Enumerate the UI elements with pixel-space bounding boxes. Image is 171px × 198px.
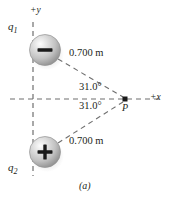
y-axis-label: +y [30, 6, 41, 16]
point-p-marker [123, 97, 128, 102]
charge-label-q2-subscript: 2 [14, 167, 18, 176]
charge-label-q1-subscript: 1 [14, 26, 18, 35]
distance-label-lower: 0.700 m [69, 136, 103, 147]
charge-label-q2: q2 [8, 162, 18, 176]
minus-sign-icon [38, 48, 53, 51]
figure-canvas [0, 0, 171, 198]
figure-caption: (a) [79, 181, 91, 191]
distance-label-upper: 0.700 m [69, 48, 103, 59]
physics-figure: +y +x q1 q2 0.700 m 0.700 m 31.0° 31.0° … [0, 0, 171, 198]
point-p-label: P [122, 103, 128, 113]
x-axis-label: +x [150, 93, 161, 103]
angle-label-lower: 31.0° [79, 101, 102, 112]
angle-label-upper: 31.0° [79, 82, 102, 93]
charge-label-q1: q1 [8, 21, 18, 35]
